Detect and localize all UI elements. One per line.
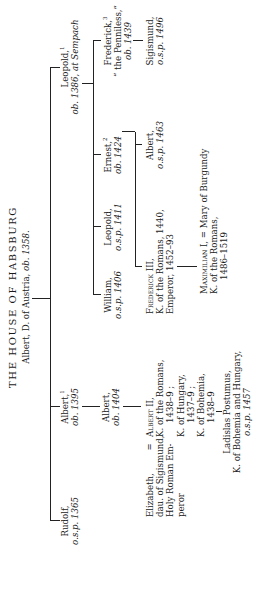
connector <box>93 40 101 41</box>
connector <box>50 67 60 68</box>
person-frederick-iii: Frederick III, K. of the Romans, 1440, E… <box>145 194 176 314</box>
genealogy-page: THE HOUSE OF HABSBURG Albert, D. of Aust… <box>0 0 265 597</box>
connector <box>133 40 143 41</box>
connector <box>82 83 93 84</box>
connector <box>93 294 101 295</box>
connector <box>93 154 101 155</box>
person-sigismund: Sigismund, o.s.p. 1496 <box>145 1 165 81</box>
connector <box>93 41 94 295</box>
connector <box>50 520 60 521</box>
person-william: William, o.s.p. 1406 <box>103 265 123 325</box>
person-leopold-1386: Leopold,1 ob. 1386, at Sempach <box>60 17 80 117</box>
connector <box>135 266 142 267</box>
connector <box>82 406 100 407</box>
connector <box>50 406 60 407</box>
person-ernest: Ernest,2 ob. 1424 <box>103 125 123 185</box>
connector <box>93 226 101 227</box>
person-rudolf: Rudolf, o.s.p. 1365 <box>60 495 80 547</box>
marriage-sign: = <box>145 441 155 453</box>
connector <box>123 406 141 407</box>
chart-title: THE HOUSE OF HABSBURG <box>8 187 18 407</box>
connector <box>122 131 135 132</box>
person-elizabeth: Elizabeth, dau. of Sigismund, Holy Roman… <box>145 445 186 517</box>
person-albert-1404: Albert, ob. 1404 <box>101 382 121 432</box>
person-maximilian: Maximilian I, = Mary of Burgundy K. of t… <box>199 144 230 294</box>
connector <box>177 266 197 267</box>
connector <box>135 132 136 267</box>
root-person: Albert, D. of Austria, ob. 1358. <box>21 187 31 407</box>
person-albert-ii: Albert II, K. of the Romans, 1438–9 ; K.… <box>145 347 216 437</box>
person-albert-1463: Albert, o.s.p. 1463 <box>145 113 165 177</box>
connector <box>50 68 51 521</box>
person-frederick-penniless: Frederick,3 “ the Penniless,” ob. 1439 <box>103 0 134 91</box>
person-ladislas: Ladislas Postumus, K. of Bohemia and Hun… <box>222 347 253 477</box>
connector <box>32 298 50 299</box>
connector <box>135 144 142 145</box>
person-albert-1395: Albert,1 ob. 1395 <box>60 382 80 432</box>
person-leopold-1411: Leopold, o.s.p. 1411 <box>103 197 123 257</box>
